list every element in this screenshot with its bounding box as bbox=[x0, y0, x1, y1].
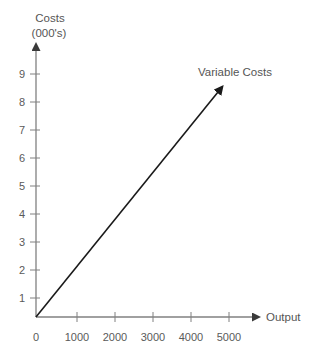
variable-costs-chart: 1 2 3 4 5 6 7 8 9 0 1000 2000 3000 4000 … bbox=[0, 0, 309, 355]
y-tick-label: 9 bbox=[19, 68, 25, 80]
x-tick-label: 3000 bbox=[141, 331, 165, 343]
x-tick-label: 1000 bbox=[65, 331, 89, 343]
variable-costs-label: Variable Costs bbox=[198, 66, 272, 78]
y-axis-ticks bbox=[30, 74, 40, 298]
y-tick-label: 8 bbox=[19, 96, 25, 108]
y-tick-label: 1 bbox=[19, 292, 25, 304]
chart-canvas: 1 2 3 4 5 6 7 8 9 0 1000 2000 3000 4000 … bbox=[0, 0, 309, 355]
x-axis-tick-labels: 0 1000 2000 3000 4000 5000 bbox=[33, 331, 241, 343]
y-axis-tick-labels: 1 2 3 4 5 6 7 8 9 bbox=[19, 68, 25, 304]
x-tick-label: 0 bbox=[33, 331, 39, 343]
variable-costs-series bbox=[36, 92, 218, 317]
y-tick-label: 6 bbox=[19, 152, 25, 164]
x-axis-title: Output bbox=[266, 311, 301, 323]
x-tick-label: 2000 bbox=[103, 331, 127, 343]
y-tick-label: 4 bbox=[19, 208, 25, 220]
y-axis-title-line1: Costs bbox=[35, 12, 65, 24]
y-tick-label: 7 bbox=[19, 124, 25, 136]
x-tick-label: 5000 bbox=[217, 331, 241, 343]
y-tick-label: 3 bbox=[19, 236, 25, 248]
variable-costs-line bbox=[36, 92, 218, 317]
y-axis-title: Costs (000's) bbox=[32, 12, 67, 39]
y-tick-label: 5 bbox=[19, 180, 25, 192]
y-axis-title-line2: (000's) bbox=[32, 27, 67, 39]
x-tick-label: 4000 bbox=[179, 331, 203, 343]
y-tick-label: 2 bbox=[19, 264, 25, 276]
